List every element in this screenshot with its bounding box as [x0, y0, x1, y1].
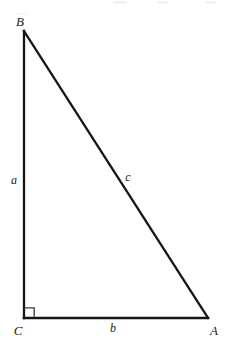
side-label-b: b	[110, 322, 116, 334]
triangle-diagram: B C A a b c	[0, 0, 229, 350]
right-angle-marker-icon	[24, 308, 34, 317]
side-label-a: a	[11, 174, 17, 186]
vertex-label-a: A	[210, 324, 218, 337]
vertex-label-c: C	[14, 324, 23, 337]
side-label-c: c	[125, 171, 130, 183]
vertex-label-b: B	[16, 15, 24, 28]
side-c-line	[24, 31, 208, 318]
triangle-figure	[0, 0, 229, 350]
